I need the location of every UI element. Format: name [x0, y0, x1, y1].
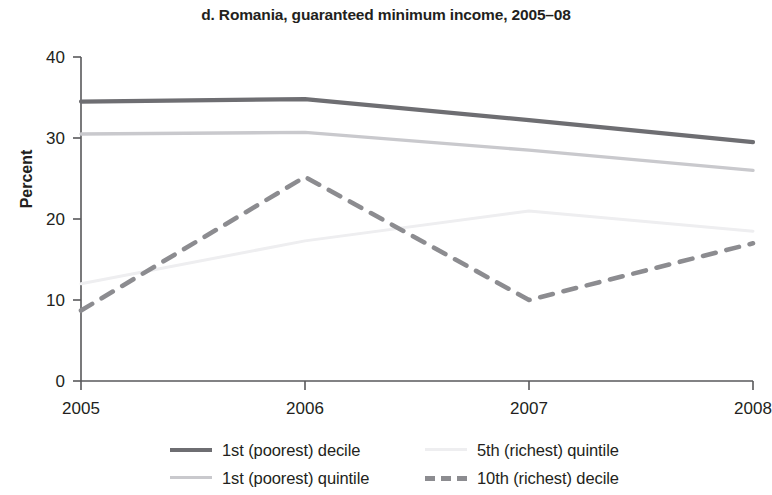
- series-line-3: [81, 177, 753, 311]
- legend-item-1: 5th (richest) quintile: [425, 437, 619, 463]
- legend-label-1: 5th (richest) quintile: [477, 441, 619, 460]
- y-tick-label: 40: [46, 48, 65, 67]
- x-tick-label: 2007: [510, 399, 548, 418]
- series-line-0: [81, 99, 753, 142]
- chart-legend: 1st (poorest) decile 5th (richest) quint…: [170, 437, 770, 495]
- tick-label-layer: 0102030402005200620072008: [46, 48, 772, 418]
- y-tick-label: 30: [46, 129, 65, 148]
- legend-item-3: 10th (richest) decile: [425, 465, 619, 491]
- series-layer: [81, 99, 753, 310]
- y-tick-label: 0: [56, 372, 65, 391]
- series-line-1: [81, 132, 753, 170]
- y-tick-label: 10: [46, 291, 65, 310]
- legend-item-2: 1st (poorest) quintile: [170, 465, 369, 491]
- legend-line-icon-3: [425, 471, 467, 485]
- x-tick-label: 2005: [62, 399, 100, 418]
- x-tick-label: 2008: [734, 399, 772, 418]
- legend-line-icon-2: [170, 471, 212, 485]
- chart-container: d. Romania, guaranteed minimum income, 2…: [0, 0, 772, 495]
- legend-label-0: 1st (poorest) decile: [222, 441, 360, 460]
- legend-line-icon-1: [425, 443, 467, 457]
- y-tick-label: 20: [46, 210, 65, 229]
- x-tick-label: 2006: [286, 399, 324, 418]
- series-line-2: [81, 211, 753, 284]
- legend-label-2: 1st (poorest) quintile: [222, 469, 369, 488]
- plot-area: 0102030402005200620072008: [0, 0, 772, 495]
- axis-layer: [73, 57, 753, 390]
- legend-label-3: 10th (richest) decile: [477, 469, 619, 488]
- legend-line-icon-0: [170, 443, 212, 457]
- legend-item-0: 1st (poorest) decile: [170, 437, 360, 463]
